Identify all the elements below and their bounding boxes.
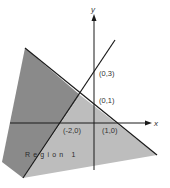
y-axis-arrow-icon — [92, 14, 97, 21]
point-label-0-1: (0,1) — [99, 96, 115, 105]
point-label-0-3: (0,3) — [99, 69, 115, 78]
y-axis-label: y — [90, 5, 96, 14]
point-label-neg2-0: (-2,0) — [63, 126, 81, 135]
region-1-label: Region 1 — [25, 151, 79, 159]
coordinate-plane: y x (0,3) (0,1) (-2,0) (1,0) Region 1 — [0, 0, 170, 188]
x-axis-label: x — [153, 119, 159, 128]
point-label-1-0: (1,0) — [102, 126, 118, 135]
x-axis-arrow-icon — [145, 121, 152, 126]
